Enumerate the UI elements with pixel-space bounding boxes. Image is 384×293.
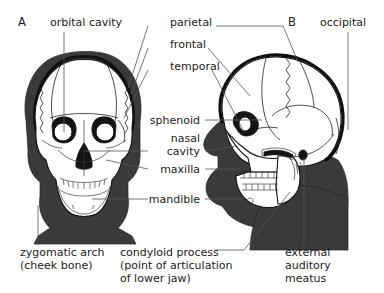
label-external-auditory-meatus-line1: external [285, 246, 330, 259]
panel-letter-b: B [288, 16, 296, 29]
label-mandible: mandible [100, 193, 200, 206]
skull-anatomy-figure: .tissue { fill: #3a3a3a; stroke: #222222… [0, 0, 384, 293]
label-nasal: nasal [100, 132, 200, 145]
orbit-inner-lateral [239, 117, 251, 131]
label-maxilla: maxilla [100, 163, 200, 176]
label-frontal: frontal [170, 38, 206, 51]
label-condyloid-process-note1: (point of articulation [120, 259, 232, 272]
label-sphenoid: sphenoid [100, 114, 200, 127]
label-orbital-cavity: orbital cavity [50, 16, 122, 29]
label-zygomatic-arch-note: (cheek bone) [20, 259, 92, 272]
orbit-inner-left [54, 123, 72, 141]
label-zygomatic-arch: zygomatic arch [20, 246, 104, 259]
label-nasal-cavity: cavity [100, 145, 200, 158]
label-occipital: occipital [320, 16, 366, 29]
label-external-auditory-meatus-line2: auditory [285, 259, 331, 272]
label-parietal: parietal [170, 16, 212, 29]
skull-lateral-view [204, 55, 348, 250]
external-auditory-meatus [299, 150, 307, 160]
label-condyloid-process-note2: of lower jaw) [120, 272, 191, 285]
label-condyloid-process: condyloid process [120, 246, 219, 259]
label-temporal: temporal [170, 60, 220, 73]
label-external-auditory-meatus-line3: meatus [285, 272, 326, 285]
panel-letter-a: A [18, 16, 26, 29]
